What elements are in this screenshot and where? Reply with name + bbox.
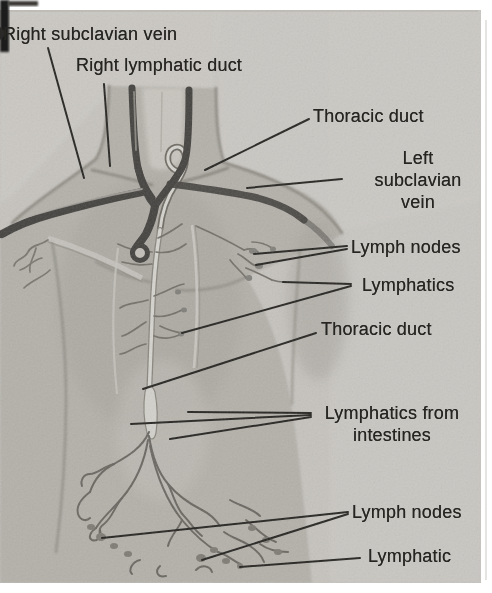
label-right-subclavian-vein: Right subclavian vein — [3, 24, 177, 45]
label-line: vein — [356, 191, 480, 213]
label-lymphatic-lower: Lymphatic — [368, 546, 451, 567]
halftone-grain — [0, 10, 481, 583]
label-thoracic-duct-mid: Thoracic duct — [321, 319, 432, 340]
label-line: Left — [356, 147, 480, 169]
page-margin-bottom — [0, 583, 492, 593]
label-left-subclavian-vein: Left subclavian vein — [356, 147, 480, 213]
label-lymphatics-upper: Lymphatics — [362, 275, 454, 296]
label-lymphatics-from-intestines: Lymphatics from intestines — [302, 402, 482, 446]
label-line: intestines — [302, 424, 482, 446]
label-thoracic-duct-upper: Thoracic duct — [313, 106, 424, 127]
page-margin-top — [0, 0, 481, 10]
label-line: Lymphatics from — [302, 402, 482, 424]
label-lymph-nodes-lower: Lymph nodes — [352, 502, 462, 523]
figure-lymphatic-system: Right subclavian vein Right lymphatic du… — [0, 0, 492, 593]
label-lymph-nodes-upper: Lymph nodes — [351, 237, 461, 258]
top-ink-streak — [8, 1, 38, 6]
label-right-lymphatic-duct: Right lymphatic duct — [76, 55, 242, 76]
label-line: subclavian — [356, 169, 480, 191]
